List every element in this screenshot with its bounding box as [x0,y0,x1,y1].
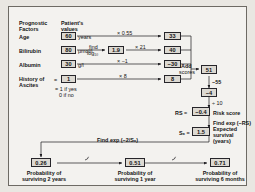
value-box-ascites[interactable]: 1 [61,75,76,83]
probability-box-2-years[interactable]: 0.26 [31,158,51,167]
expected-survival-box[interactable]: 1.5 [192,127,210,136]
figure-frame: Prognostic Factors Patient's values Age … [0,0,255,192]
risk-score-equals-label: RS = [175,110,187,116]
probability-box-1-year[interactable]: 0.51 [125,158,145,167]
probability-caption-6-months-line2: surviving 6 months [182,176,255,182]
multiplier-age: × 0.55 [117,30,132,36]
figure-page: Prognostic Factors Patient's values Age … [8,6,247,186]
value-box-age[interactable]: 60 [61,32,76,40]
offset-result-box[interactable]: −4 [201,88,217,97]
divide-label: ÷ 10 [212,100,223,106]
factor-label-albumin: Albumin [19,62,41,68]
expected-survival-equals-label: S₀ = [179,130,190,136]
factor-label-bilirubin: Bilirubin [19,48,41,54]
multiplier-bilirubin: × 21 [135,44,146,50]
value-box-albumin[interactable]: 30 [61,60,76,68]
value-box-bilirubin[interactable]: 80 [61,46,76,54]
score-box-ascites[interactable]: 8 [164,75,181,83]
probability-caption-2-years-line2: surviving 2 years [9,176,79,182]
offset-label: −55 [212,79,221,85]
total-score-box[interactable]: 51 [201,65,217,74]
multiplier-ascites: × 8 [119,73,127,79]
factor-label-age: Age [19,34,29,40]
find-exp-bottom-label: Find exp (−2/S₀) [97,137,138,143]
expected-survival-caption-line3: (years) [213,138,231,144]
unit-age: years [78,34,91,40]
factor-label-history-of-ascites-line2: Ascites [19,82,38,88]
score-box-bilirubin[interactable]: 40 [164,46,181,54]
risk-score-caption: Risk score [213,110,240,116]
score-box-age[interactable]: 33 [164,32,181,40]
risk-score-box[interactable]: −0.4 [192,107,210,116]
add-scores-label-line2: scores [179,69,195,75]
transform-bilirubin-line2: log₁₀ [87,50,98,56]
probability-caption-1-year-line2: surviving 1 year [100,176,170,182]
score-box-albumin[interactable]: −30 [164,60,181,68]
ascites-note-line2: 0 if no [59,92,74,98]
equals-sign-ascites: = [54,77,57,83]
unit-albumin: g/l [78,62,84,68]
header-prognostic-factors-line2: Factors [19,26,39,32]
probability-box-6-months[interactable]: 0.71 [210,158,230,167]
multiplier-albumin: × −1 [117,58,128,64]
intermediate-box-bilirubin-log[interactable]: 1.9 [108,46,124,54]
